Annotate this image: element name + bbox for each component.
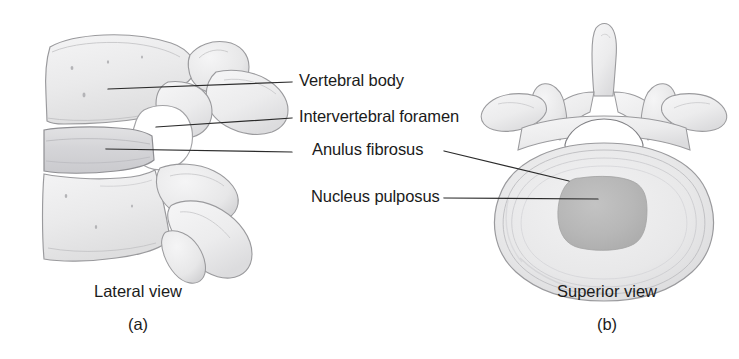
- label-vertebral-body: Vertebral body: [299, 72, 404, 89]
- vertebral-body-lower: [43, 170, 171, 261]
- anatomy-figure: Vertebral body Intervertebral foramen An…: [0, 0, 739, 359]
- caption-lateral-view: Lateral view: [63, 283, 213, 300]
- nucleus-pulposus: [558, 176, 647, 250]
- lateral-view-illustration: [43, 35, 289, 283]
- label-intervertebral-foramen: Intervertebral foramen: [299, 108, 459, 125]
- caption-superior-view: Superior view: [527, 283, 687, 300]
- label-anulus-fibrosus: Anulus fibrosus: [312, 141, 423, 158]
- label-nucleus-pulposus: Nucleus pulposus: [311, 188, 440, 205]
- spinous-process-upper: [206, 70, 288, 134]
- vertebra-illustration-svg: [0, 0, 739, 359]
- superior-view-illustration: [481, 24, 727, 302]
- caption-lateral-letter: (a): [63, 316, 213, 333]
- caption-superior-letter: (b): [527, 316, 687, 333]
